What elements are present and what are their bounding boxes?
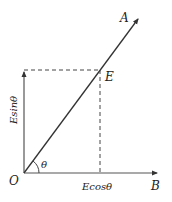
vector-decomposition-diagram: A E O B θ Ecosθ Esinθ <box>0 0 172 202</box>
vector-oa <box>24 19 138 173</box>
label-ecos-theta: Ecosθ <box>81 181 112 192</box>
label-a: A <box>119 11 129 25</box>
label-b: B <box>150 179 160 193</box>
theta-angle-arc <box>33 161 39 173</box>
label-e: E <box>104 70 114 84</box>
label-theta: θ <box>41 159 47 170</box>
label-esin-theta: Esinθ <box>8 96 19 125</box>
label-o: O <box>9 174 19 188</box>
